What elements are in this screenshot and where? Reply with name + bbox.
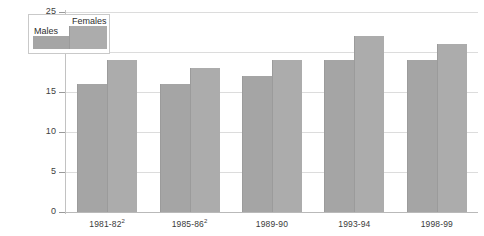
bar-females xyxy=(354,36,384,212)
x-axis-tick-label: 1998-99 xyxy=(396,219,478,229)
y-axis-tick-label: 5 xyxy=(14,166,56,176)
bar-females xyxy=(107,60,137,212)
x-axis-tick-label: 1981-822 xyxy=(66,219,148,229)
legend-swatch-females xyxy=(69,26,107,49)
y-axis-tick xyxy=(59,12,65,13)
chart-legend: Males Females xyxy=(28,14,110,54)
y-axis-tick xyxy=(59,132,65,133)
legend-label-males: Males xyxy=(33,26,59,36)
grouped-bar-chart: 0510152025 1981-8221985-8621989-901993-9… xyxy=(0,0,484,236)
x-axis-tick-label: 1985-862 xyxy=(148,219,230,229)
gridline xyxy=(66,212,478,213)
x-axis-tick-label: 1989-90 xyxy=(231,219,313,229)
legend-swatch-males xyxy=(33,36,69,49)
bar-males xyxy=(324,60,354,212)
y-axis-tick xyxy=(59,212,65,213)
bar-males xyxy=(77,84,107,212)
bar-group xyxy=(160,12,220,212)
bar-females xyxy=(190,68,220,212)
y-axis-tick-label: 15 xyxy=(14,86,56,96)
bar-females xyxy=(437,44,467,212)
bar-males xyxy=(407,60,437,212)
bar-group xyxy=(324,12,384,212)
bar-males xyxy=(242,76,272,212)
y-axis-tick-label: 0 xyxy=(14,206,56,216)
y-axis-tick xyxy=(59,92,65,93)
plot-area xyxy=(66,12,478,212)
x-axis-tick-label: 1993-94 xyxy=(313,219,395,229)
bar-group xyxy=(242,12,302,212)
y-axis-tick-label: 10 xyxy=(14,126,56,136)
bar-males xyxy=(160,84,190,212)
bar-females xyxy=(272,60,302,212)
y-axis-tick xyxy=(59,172,65,173)
bar-group xyxy=(407,12,467,212)
legend-label-females: Females xyxy=(71,16,108,26)
